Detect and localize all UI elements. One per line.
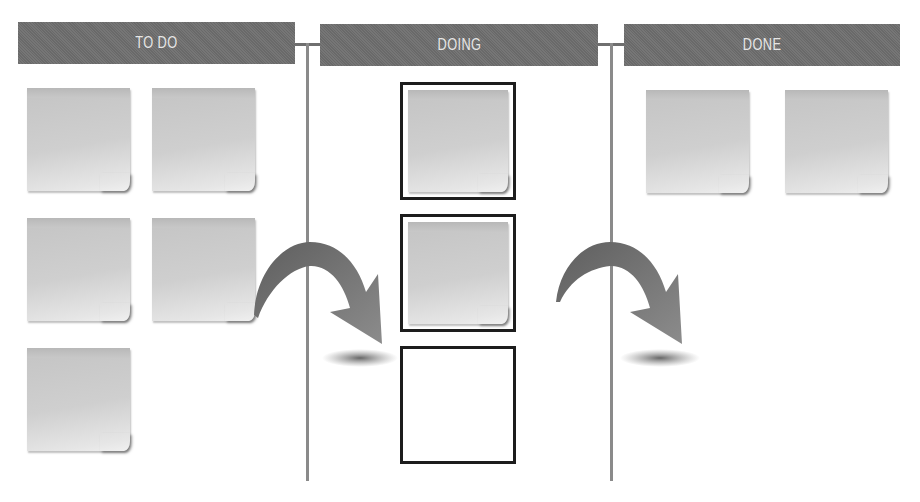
column-title-doing: DOING xyxy=(437,36,481,54)
column-header-doing: DOING xyxy=(320,24,598,66)
kanban-board: TO DO DOING DONE xyxy=(0,0,920,502)
column-header-done: DONE xyxy=(624,24,900,66)
sticky-note-done-1[interactable] xyxy=(646,90,749,193)
wip-slot-1[interactable] xyxy=(400,82,516,200)
sticky-note-todo-2[interactable] xyxy=(152,88,255,191)
column-header-todo: TO DO xyxy=(18,22,295,64)
column-title-done: DONE xyxy=(743,36,782,54)
curved-arrow-icon xyxy=(550,230,720,380)
column-title-todo: TO DO xyxy=(135,34,177,52)
sticky-note-done-2[interactable] xyxy=(785,90,888,193)
sticky-note-todo-5[interactable] xyxy=(27,348,130,451)
sticky-note-todo-1[interactable] xyxy=(27,88,130,191)
curved-arrow-icon xyxy=(240,230,410,380)
sticky-note-todo-3[interactable] xyxy=(27,218,130,321)
sticky-note-doing-1[interactable] xyxy=(408,90,508,192)
wip-slot-empty[interactable] xyxy=(400,346,516,464)
sticky-note-doing-2[interactable] xyxy=(408,222,508,324)
wip-slot-2[interactable] xyxy=(400,214,516,332)
